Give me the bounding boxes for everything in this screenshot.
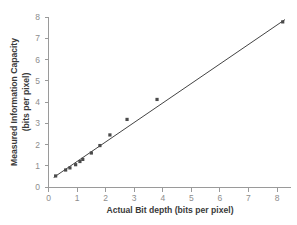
y-tick-label: 4	[35, 97, 40, 107]
y-axis-title-line1: Measured Information Capacity	[9, 38, 19, 166]
x-tick-label: 5	[189, 193, 194, 203]
x-axis-ticks: 012345678	[46, 188, 280, 204]
trend-line-segment	[54, 20, 285, 178]
data-point	[155, 98, 158, 101]
data-point	[74, 163, 77, 166]
data-point	[64, 168, 67, 171]
x-tick-label: 2	[103, 193, 108, 203]
trend-line	[54, 20, 285, 178]
x-tick-label: 6	[218, 193, 223, 203]
data-point	[90, 151, 93, 154]
data-point	[98, 144, 101, 147]
x-axis-title: Actual Bit depth (bits per pixel)	[106, 205, 233, 215]
data-point	[81, 158, 84, 161]
x-tick-label: 3	[132, 193, 137, 203]
y-axis-ticks: 012345678	[35, 12, 48, 192]
data-point	[68, 166, 71, 169]
y-tick-label: 3	[35, 118, 40, 128]
scatter-plot: 012345678 012345678 Actual Bit depth (bi…	[0, 0, 297, 225]
x-tick-label: 4	[160, 193, 165, 203]
y-tick-label: 0	[35, 182, 40, 192]
y-axis-title-line2: (bits per pixel)	[21, 72, 31, 131]
y-tick-label: 2	[35, 140, 40, 150]
data-point	[108, 133, 111, 136]
x-tick-label: 7	[246, 193, 251, 203]
x-tick-label: 0	[46, 193, 51, 203]
data-point	[125, 118, 128, 121]
data-point	[54, 174, 57, 177]
chart-container: 012345678 012345678 Actual Bit depth (bi…	[0, 0, 297, 225]
y-tick-label: 5	[35, 76, 40, 86]
y-tick-label: 6	[35, 55, 40, 65]
y-tick-label: 7	[35, 33, 40, 43]
y-tick-label: 8	[35, 12, 40, 22]
x-tick-label: 8	[275, 193, 280, 203]
y-tick-label: 1	[35, 161, 40, 171]
x-tick-label: 1	[75, 193, 80, 203]
data-point	[281, 20, 284, 23]
data-point	[78, 160, 81, 163]
